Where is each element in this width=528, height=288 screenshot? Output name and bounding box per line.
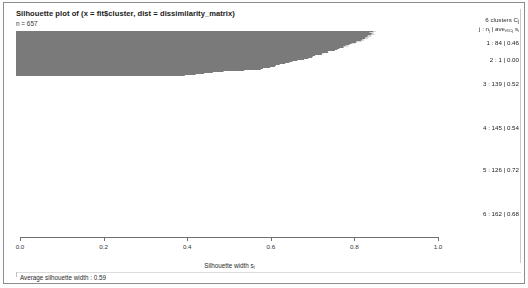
plot-canvas: Silhouette plot of (x = fit$cluster, dis… <box>9 6 521 282</box>
silhouette-plot-area <box>16 30 443 236</box>
legend-row-cluster-6: 6 : 162 | 0.68 <box>483 210 519 217</box>
x-axis-title-subscript: i <box>254 265 255 270</box>
x-axis-title: Silhouette width si <box>16 262 443 269</box>
x-axis-line <box>20 237 438 238</box>
footer-divider <box>16 272 521 273</box>
screenshot-page: Silhouette plot of (x = fit$cluster, dis… <box>0 0 528 288</box>
average-silhouette-width-label: Average silhouette width : 0.59 <box>20 274 106 281</box>
x-axis-tick <box>438 237 439 241</box>
x-axis-tick-label: 0.0 <box>16 243 25 250</box>
image-frame: Silhouette plot of (x = fit$cluster, dis… <box>3 2 525 284</box>
x-axis-tick <box>354 237 355 241</box>
legend-header-col-j-sub: j <box>489 28 490 33</box>
page-title: Silhouette plot of (x = fit$cluster, dis… <box>16 9 235 18</box>
legend-header-clusters-subscript: j <box>518 19 519 24</box>
legend-row-cluster-2: 2 : 1 | 0.00 <box>490 56 519 63</box>
x-axis-tick <box>187 237 188 241</box>
legend-header-col-s-sub: i <box>518 28 519 33</box>
cluster-legend: 6 clusters Cj j : nj | avei∈Cj si 1 : 84… <box>449 9 521 234</box>
legend-row-cluster-1: 1 : 84 | 0.46 <box>486 39 519 46</box>
legend-header-clusters-text: 6 clusters C <box>485 16 518 23</box>
x-axis: 0.00.20.40.60.81.0 <box>16 237 443 263</box>
legend-header-col-ave-sub: i∈Cj <box>505 28 513 33</box>
cluster-band <box>16 31 443 76</box>
legend-header-columns: j : nj | avei∈Cj si <box>479 25 519 32</box>
x-axis-tick-label: 0.2 <box>99 243 108 250</box>
legend-row-cluster-3: 3 : 139 | 0.52 <box>483 80 519 87</box>
legend-header-col-j: j : n <box>479 25 489 32</box>
x-axis-tick-label: 0.4 <box>183 243 192 250</box>
legend-row-cluster-4: 4 : 145 | 0.54 <box>483 124 519 131</box>
cluster-band-bars <box>16 31 443 76</box>
footer-tick-mark <box>16 272 17 277</box>
x-axis-tick <box>104 237 105 241</box>
x-axis-tick-label: 1.0 <box>434 243 443 250</box>
x-axis-title-text: Silhouette width s <box>204 262 253 269</box>
x-axis-tick <box>271 237 272 241</box>
sample-size-label: n = 657 <box>16 20 38 27</box>
x-axis-tick-label: 0.8 <box>350 243 359 250</box>
legend-header-col-ave: | ave <box>490 25 505 32</box>
x-axis-tick <box>20 237 21 241</box>
legend-header-clusters: 6 clusters Cj <box>485 16 519 23</box>
x-axis-tick-label: 0.6 <box>266 243 275 250</box>
legend-row-cluster-5: 5 : 126 | 0.72 <box>483 166 519 173</box>
